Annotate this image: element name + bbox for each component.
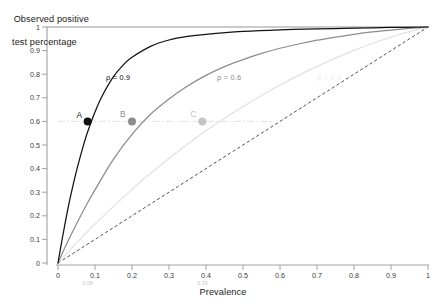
- data-point-marker: [198, 117, 206, 125]
- point-label: C: [190, 109, 196, 119]
- y-tick-label: 0.4: [10, 164, 40, 173]
- x-tick-label: 0.1: [81, 271, 109, 280]
- identity-reference-line: [58, 27, 428, 263]
- x-tick-label: 0.8: [340, 271, 368, 280]
- x-tick-label: 0.6: [266, 271, 294, 280]
- y-tick-label: 0.8: [10, 70, 40, 79]
- x-tick-label: 0.2: [118, 271, 146, 280]
- x-tick-label: 1: [414, 271, 442, 280]
- curve-label: ρ = 0.6: [217, 73, 241, 82]
- x-tick-label: 0: [44, 271, 72, 280]
- x-tick-label: 0.4: [192, 271, 220, 280]
- y-tick-label: 0.2: [10, 211, 40, 220]
- x-tick-label: 0.5: [229, 271, 257, 280]
- curve-label: ρ = 0.9: [106, 73, 130, 82]
- y-tick-label: 0.3: [10, 188, 40, 197]
- y-tick-label: 0.9: [10, 46, 40, 55]
- chart-root: Observed positive test percentage Preval…: [0, 0, 446, 305]
- x-tick-label: 0.9: [377, 271, 405, 280]
- y-tick-label: 1: [10, 23, 40, 32]
- x-tick-label: 0.3: [155, 271, 183, 280]
- identity-reference-line-path: [58, 27, 428, 263]
- x-sub-annotation: 0.39: [189, 280, 215, 286]
- point-label: B: [120, 109, 126, 119]
- y-tick-label: 0.7: [10, 93, 40, 102]
- y-tick-label: 0.5: [10, 141, 40, 150]
- data-point-marker: [84, 117, 92, 125]
- y-axis-title: Observed positive test percentage: [3, 2, 89, 71]
- x-axis-title: Prevalence: [0, 287, 446, 299]
- x-sub-annotation: 0.08: [75, 280, 101, 286]
- curve-label: ρ = 0.3: [317, 73, 341, 82]
- point-label: A: [77, 110, 83, 120]
- y-tick-label: 0.6: [10, 117, 40, 126]
- y-tick-label: 0: [10, 259, 40, 268]
- x-tick-label: 0.7: [303, 271, 331, 280]
- y-tick-label: 0.1: [10, 235, 40, 244]
- data-point-marker: [128, 117, 136, 125]
